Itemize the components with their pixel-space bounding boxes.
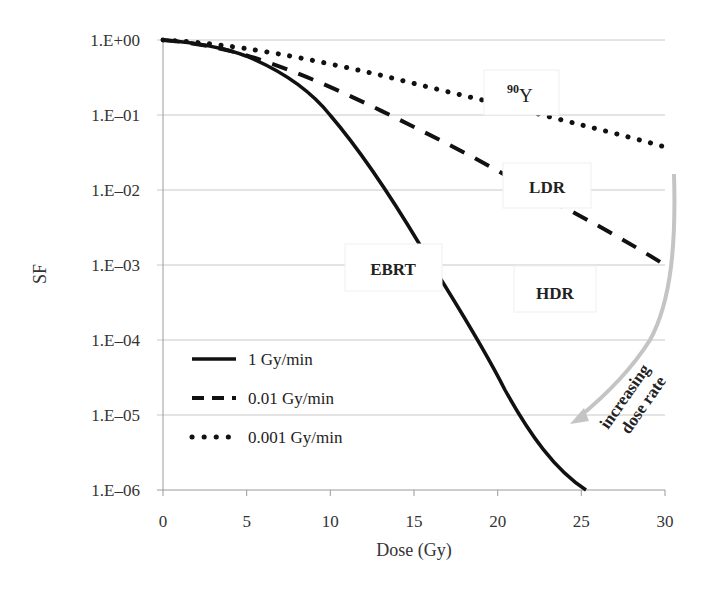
x-tick-label: 30: [657, 512, 674, 531]
x-tick-label: 25: [573, 512, 590, 531]
x-tick-label: 5: [242, 512, 251, 531]
legend: 1 Gy/min 0.01 Gy/min 0.001 Gy/min: [192, 350, 343, 447]
legend-label: 0.01 Gy/min: [248, 389, 334, 408]
survival-fraction-chart: 1.E+00 1.E–01 1.E–02 1.E–03 1.E–04 1.E–0…: [0, 0, 713, 593]
curve-0.01-gy-min: [163, 40, 665, 265]
label-hdr: HDR: [514, 266, 596, 312]
y-tick-labels: 1.E+00 1.E–01 1.E–02 1.E–03 1.E–04 1.E–0…: [90, 31, 140, 500]
legend-item: 1 Gy/min: [192, 350, 313, 369]
x-tick-label: 0: [159, 512, 168, 531]
label-90y: 90Y: [484, 70, 559, 115]
curve-0.001-gy-min: [163, 40, 665, 147]
y-tick-label: 1.E–03: [91, 256, 140, 275]
legend-label: 0.001 Gy/min: [248, 428, 343, 447]
x-tick-label: 20: [489, 512, 506, 531]
label-ldr: LDR: [503, 163, 591, 208]
legend-label: 1 Gy/min: [248, 350, 313, 369]
label-ebrt-text: EBRT: [370, 260, 416, 279]
label-90y-base: Y: [519, 85, 533, 106]
x-tick-label: 10: [322, 512, 339, 531]
y-tick-label: 1.E–02: [91, 181, 140, 200]
label-hdr-text: HDR: [536, 284, 575, 303]
y-tick-label: 1.E+00: [90, 31, 140, 50]
label-90y-superscript: 90: [507, 82, 519, 96]
x-axis-title: Dose (Gy): [376, 540, 451, 561]
y-tick-label: 1.E–01: [91, 106, 140, 125]
x-tick-label: 15: [406, 512, 423, 531]
label-ldr-text: LDR: [529, 178, 566, 197]
legend-item: 0.01 Gy/min: [192, 389, 334, 408]
legend-item: 0.001 Gy/min: [192, 428, 343, 447]
y-tick-label: 1.E–05: [91, 406, 140, 425]
label-ebrt: EBRT: [345, 244, 442, 291]
x-tick-labels: 0 5 10 15 20 25 30: [159, 512, 674, 531]
y-axis-title: SF: [30, 264, 50, 284]
y-tick-label: 1.E–04: [91, 331, 140, 350]
y-tick-label: 1.E–06: [91, 481, 140, 500]
